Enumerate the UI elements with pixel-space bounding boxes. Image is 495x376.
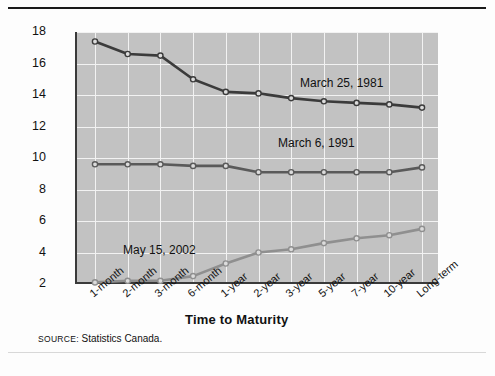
y-tick-label: 10	[18, 150, 46, 164]
figure-container: Yield to Maturity (%) Time to Maturity 2…	[0, 0, 495, 376]
source-label: SOURCE:	[38, 334, 79, 344]
y-tick-label: 4	[18, 245, 46, 259]
data-point	[321, 241, 326, 246]
data-point	[387, 233, 392, 238]
data-point	[125, 162, 130, 167]
data-point	[256, 91, 261, 96]
data-point	[256, 250, 261, 255]
data-point	[158, 162, 163, 167]
data-point	[289, 96, 294, 101]
y-tick-label: 16	[18, 56, 46, 70]
y-tick-label: 14	[18, 87, 46, 101]
data-point	[256, 170, 261, 175]
series-1	[92, 39, 424, 110]
data-point	[387, 102, 392, 107]
x-axis-title: Time to Maturity	[185, 312, 288, 327]
data-point	[191, 77, 196, 82]
data-point	[158, 53, 163, 58]
series-label-1: March 25, 1981	[300, 76, 383, 90]
data-point	[289, 247, 294, 252]
data-point	[387, 170, 392, 175]
data-point	[92, 162, 97, 167]
data-point	[354, 100, 359, 105]
y-tick-label: 18	[18, 24, 46, 38]
y-tick-label: 2	[18, 276, 46, 290]
data-point	[223, 163, 228, 168]
series-line	[95, 42, 422, 108]
data-point	[223, 89, 228, 94]
series-label-2: March 6, 1991	[278, 136, 355, 150]
data-point	[321, 99, 326, 104]
data-point	[419, 105, 424, 110]
source-note: SOURCE: Statistics Canada.	[38, 333, 162, 344]
data-point	[419, 165, 424, 170]
y-tick-label: 8	[18, 182, 46, 196]
data-point	[191, 274, 196, 279]
data-point	[223, 261, 228, 266]
line-chart: Yield to Maturity (%) Time to Maturity 2…	[0, 0, 495, 376]
series-label-3: May 15, 2002	[123, 243, 196, 257]
source-value: Statistics Canada.	[79, 333, 162, 344]
data-point	[354, 170, 359, 175]
data-point	[419, 226, 424, 231]
series-2	[92, 162, 424, 175]
y-tick-label: 12	[18, 119, 46, 133]
data-point	[191, 163, 196, 168]
y-tick-label: 6	[18, 213, 46, 227]
data-point	[92, 39, 97, 44]
data-point	[289, 170, 294, 175]
data-point	[321, 170, 326, 175]
data-point	[125, 51, 130, 56]
data-point	[354, 236, 359, 241]
